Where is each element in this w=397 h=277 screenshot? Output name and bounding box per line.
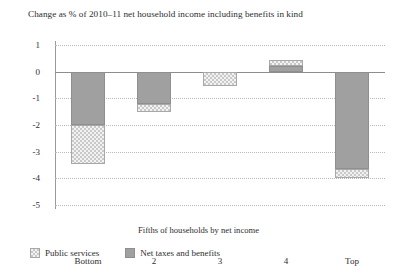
y-axis-tick-label: -1 <box>10 93 40 103</box>
plot-area: 10-1-2-3-4-5Bottom234Top <box>55 45 385 205</box>
bar-segment-public-services <box>71 125 105 164</box>
y-axis-tick-label: -2 <box>10 120 40 130</box>
bar-segment-net-taxes-and-benefits <box>269 66 303 72</box>
bar-segment-net-taxes-and-benefits <box>335 72 369 169</box>
y-axis-tick-label: 1 <box>10 40 40 50</box>
x-axis-title: Fifths of households by net income <box>0 225 397 235</box>
y-axis-tick-label: -3 <box>10 147 40 157</box>
x-axis-tick-label: Top <box>345 256 359 266</box>
bar-group <box>137 45 171 205</box>
bar-group <box>269 45 303 205</box>
y-axis-tick-label: -4 <box>10 173 40 183</box>
bar-segment-public-services <box>137 104 171 112</box>
legend-label: Public services <box>45 248 99 258</box>
legend-swatch-icon <box>125 248 135 258</box>
y-axis-tick-label: 0 <box>10 67 40 77</box>
chart-title: Change as % of 2010–11 net household inc… <box>28 9 303 19</box>
bar-segment-net-taxes-and-benefits <box>137 72 171 104</box>
chart-legend: Public servicesNet taxes and benefits <box>30 248 220 258</box>
bar-segment-public-services <box>203 72 237 87</box>
x-axis-tick-label: 4 <box>284 256 289 266</box>
legend-item: Public services <box>30 248 99 258</box>
bar-segment-net-taxes-and-benefits <box>71 72 105 125</box>
bar-group <box>71 45 105 205</box>
chart-container: Change as % of 2010–11 net household inc… <box>0 0 397 277</box>
bar-group <box>335 45 369 205</box>
legend-label: Net taxes and benefits <box>140 248 220 258</box>
y-axis-tick-label: -5 <box>10 200 40 210</box>
legend-item: Net taxes and benefits <box>125 248 220 258</box>
legend-swatch-icon <box>30 248 40 258</box>
bar-segment-public-services <box>269 60 303 66</box>
bar-segment-public-services <box>335 169 369 178</box>
bar-group <box>203 45 237 205</box>
gridline <box>55 205 385 206</box>
